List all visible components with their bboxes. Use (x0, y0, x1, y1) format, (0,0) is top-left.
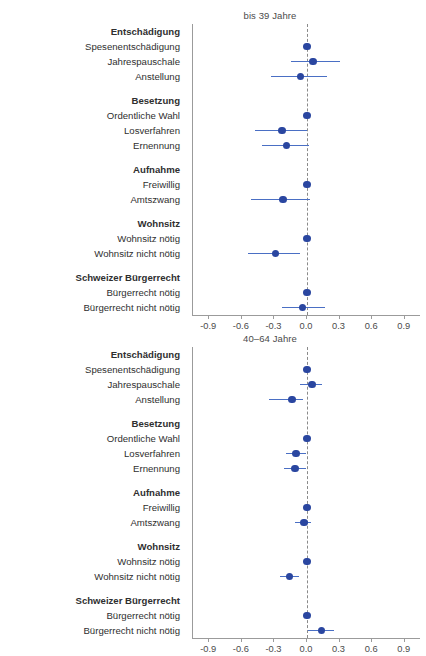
coefficient-row (193, 392, 421, 407)
coefficient-row (193, 362, 421, 377)
group-label: Aufnahme (0, 485, 186, 500)
coefficient-point (297, 73, 305, 81)
coefficient-point (283, 142, 291, 150)
axis-tick (306, 638, 307, 642)
group-label: Wohnsitz (0, 539, 186, 554)
coefficient-row (193, 123, 421, 138)
coefficient-point (279, 196, 287, 204)
category-label: Wohnsitz nicht nötig (0, 246, 186, 261)
coefficient-row (193, 108, 421, 123)
coefficient-row (193, 608, 421, 623)
axis-tick (371, 315, 372, 319)
axis-tick (208, 638, 209, 642)
coefficient-point (291, 465, 299, 473)
coefficient-row (193, 69, 421, 84)
coefficient-row (193, 569, 421, 584)
coefficient-row (193, 554, 421, 569)
group-label: Besetzung (0, 93, 186, 108)
axis-tick (273, 638, 274, 642)
axis-tick-label: 0.0 (300, 321, 313, 331)
category-label: Ernennung (0, 138, 186, 153)
category-label: Wohnsitz nötig (0, 231, 186, 246)
category-label: Jahrespauschale (0, 54, 186, 69)
coefficient-row (193, 177, 421, 192)
axis-tick-label: -0.3 (265, 321, 281, 331)
axis-tick (273, 315, 274, 319)
category-label: Ordentliche Wahl (0, 431, 186, 446)
coefficient-point (303, 612, 311, 620)
axis-tick (208, 315, 209, 319)
axis-tick-label: 0.6 (365, 644, 378, 654)
category-label: Spesenentschädigung (0, 39, 186, 54)
category-label: Anstellung (0, 69, 186, 84)
coefficient-point (278, 127, 286, 135)
coefficient-point (303, 366, 311, 374)
coefficient-point (308, 381, 316, 389)
coefficient-point (309, 58, 317, 66)
category-label: Wohnsitz nicht nötig (0, 569, 186, 584)
coefficient-point (300, 519, 308, 527)
category-label: Ordentliche Wahl (0, 108, 186, 123)
coefficient-point (303, 435, 311, 443)
coefficient-point (303, 43, 311, 51)
category-label-column: EntschädigungSpesenentschädigungJahrespa… (0, 347, 186, 638)
axis-tick (339, 315, 340, 319)
category-label: Wohnsitz nötig (0, 554, 186, 569)
coefficient-point (299, 304, 307, 312)
axis-tick-label: 0.3 (332, 321, 345, 331)
coefficient-row (193, 246, 421, 261)
chart-title: bis 39 Jahre (190, 10, 350, 21)
top-caption-text (6, 0, 420, 8)
coefficient-point (288, 396, 296, 404)
category-label: Bürgerrecht nicht nötig (0, 623, 186, 638)
coefficient-point (303, 235, 311, 243)
label-spacer (0, 261, 186, 270)
group-label: Wohnsitz (0, 216, 186, 231)
axis-tick (241, 638, 242, 642)
axis-tick-label: 0.9 (397, 321, 410, 331)
axis-tick-label: -0.3 (265, 644, 281, 654)
coefficient-row (193, 231, 421, 246)
axis-tick (371, 638, 372, 642)
category-label: Amtszwang (0, 515, 186, 530)
category-label: Losverfahren (0, 446, 186, 461)
category-label: Freiwillig (0, 177, 186, 192)
category-label: Freiwillig (0, 500, 186, 515)
coefficient-point (303, 181, 311, 189)
coefficient-point (303, 289, 311, 297)
plot-area (192, 24, 420, 315)
axis-tick-label: -0.9 (200, 644, 216, 654)
coefficient-point (292, 450, 300, 458)
group-label: Besetzung (0, 416, 186, 431)
category-label: Amtszwang (0, 192, 186, 207)
label-spacer (0, 84, 186, 93)
axis-tick-label: -0.6 (233, 644, 249, 654)
group-label: Schweizer Bürgerrecht (0, 270, 186, 285)
category-label: Bürgerrecht nötig (0, 608, 186, 623)
axis-tick (404, 638, 405, 642)
axis-tick (404, 315, 405, 319)
axis-tick-label: 0.9 (397, 644, 410, 654)
coefficient-row (193, 138, 421, 153)
category-label: Bürgerrecht nicht nötig (0, 300, 186, 315)
axis-tick (306, 315, 307, 319)
coefficient-point (303, 504, 311, 512)
group-label: Entschädigung (0, 347, 186, 362)
coefficient-point (286, 573, 294, 581)
label-spacer (0, 407, 186, 416)
axis-tick-label: 0.3 (332, 644, 345, 654)
coefficient-point (318, 627, 326, 635)
coefficient-point (272, 250, 280, 258)
coefficient-row (193, 39, 421, 54)
chart-title: 40–64 Jahre (190, 333, 350, 344)
axis-tick-label: 0.0 (300, 644, 313, 654)
category-label: Bürgerrecht nötig (0, 285, 186, 300)
label-spacer (0, 584, 186, 593)
axis-tick-label: -0.6 (233, 321, 249, 331)
coefficient-row (193, 500, 421, 515)
category-label: Losverfahren (0, 123, 186, 138)
coefficient-row (193, 623, 421, 638)
category-label-column: EntschädigungSpesenentschädigungJahrespa… (0, 24, 186, 315)
category-label: Spesenentschädigung (0, 362, 186, 377)
